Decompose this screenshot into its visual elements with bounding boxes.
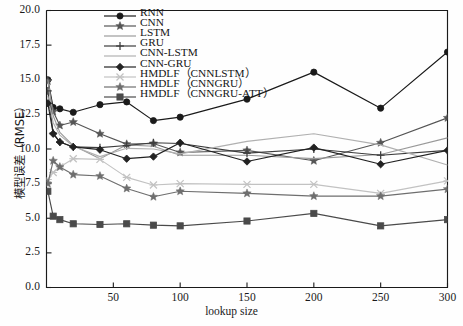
data-point-marker xyxy=(97,221,103,227)
data-point-marker xyxy=(50,213,56,219)
data-point-marker xyxy=(97,102,103,108)
data-point-marker xyxy=(244,218,250,224)
data-point-marker xyxy=(69,170,77,178)
y-axis-tick-label: 12.5 xyxy=(2,107,40,119)
x-axis-title: lookup size xyxy=(0,305,463,317)
chart-legend: RNNCNNLSTMGRUCNN-LSTMCNN-GRUHMDLF（CNNLST… xyxy=(103,7,274,98)
x-axis-tick-label: 250 xyxy=(359,291,403,303)
y-axis-tick-label: 0.0 xyxy=(2,280,40,292)
data-point-marker xyxy=(57,106,63,112)
x-axis-tick-label: 50 xyxy=(91,291,135,303)
legend-marker-plus-icon xyxy=(103,37,137,47)
data-point-marker xyxy=(150,153,157,160)
data-point-marker xyxy=(70,221,76,227)
legend-item-cnn-lstm[interactable]: CNN-LSTM xyxy=(103,47,274,57)
data-point-marker xyxy=(124,221,130,227)
data-point-marker xyxy=(310,144,317,151)
legend-label: CNN-LSTM xyxy=(140,47,198,57)
x-axis-tick-label: 100 xyxy=(158,291,202,303)
data-point-marker xyxy=(96,129,104,137)
legend-marker-x-icon xyxy=(103,68,137,78)
data-point-marker xyxy=(176,139,183,146)
data-point-marker xyxy=(44,179,52,187)
y-axis-tick-label: 20.0 xyxy=(2,3,40,15)
data-point-marker xyxy=(70,109,76,115)
data-point-marker xyxy=(177,114,183,120)
y-axis-tick-label: 5.0 xyxy=(2,211,40,223)
legend-item-hmdlfcnngru-att[interactable]: HMDLF（CNNGRU-ATT） xyxy=(103,88,274,98)
legend-marker-diamond-icon xyxy=(103,58,137,68)
legend-marker-none-icon xyxy=(103,27,137,37)
legend-item-rnn[interactable]: RNN xyxy=(103,7,274,17)
data-point-marker xyxy=(378,105,384,111)
data-point-marker xyxy=(150,118,156,124)
data-point-marker xyxy=(243,189,251,197)
data-point-marker xyxy=(311,69,317,75)
y-axis-tick-label: 15.0 xyxy=(2,72,40,84)
y-axis-tick-label: 2.5 xyxy=(2,245,40,257)
data-point-marker xyxy=(177,223,183,229)
data-point-marker xyxy=(57,217,63,223)
legend-marker-star-icon xyxy=(103,17,137,27)
chart-series xyxy=(44,100,451,168)
data-point-marker xyxy=(123,184,131,192)
legend-item-lstm[interactable]: LSTM xyxy=(103,27,274,37)
legend-marker-star-icon xyxy=(103,78,137,88)
y-axis-tick-label: 17.5 xyxy=(2,38,40,50)
legend-item-cnn[interactable]: CNN xyxy=(103,17,274,27)
data-point-marker xyxy=(444,147,451,154)
data-point-marker xyxy=(310,156,318,164)
legend-label: HMDLF（CNNGRU-ATT） xyxy=(140,88,274,98)
x-axis-tick-label: 200 xyxy=(292,291,336,303)
x-axis-tick-label: 300 xyxy=(426,291,463,303)
legend-marker-circle-icon xyxy=(103,7,137,17)
data-point-marker xyxy=(444,49,450,55)
x-axis-tick-label: 150 xyxy=(225,291,269,303)
data-point-marker xyxy=(243,158,250,165)
chart-container: 模型误差（RMSE） lookup size 0.02.55.07.510.01… xyxy=(0,0,463,326)
y-axis-tick-label: 7.5 xyxy=(2,176,40,188)
data-point-marker xyxy=(377,161,384,168)
data-point-marker xyxy=(310,192,318,200)
legend-marker-square-icon xyxy=(103,88,137,98)
data-point-marker xyxy=(378,223,384,229)
data-point-marker xyxy=(117,94,123,100)
legend-marker-none-icon xyxy=(103,47,137,57)
data-point-marker xyxy=(150,222,156,228)
data-point-marker xyxy=(176,187,184,195)
data-point-marker xyxy=(96,172,104,180)
data-point-marker xyxy=(444,217,450,223)
data-point-marker xyxy=(69,118,77,126)
data-point-marker xyxy=(149,192,157,200)
data-point-marker xyxy=(123,155,130,162)
y-axis-tick-label: 10.0 xyxy=(2,142,40,154)
data-point-marker xyxy=(45,188,51,194)
data-point-marker xyxy=(311,210,317,216)
